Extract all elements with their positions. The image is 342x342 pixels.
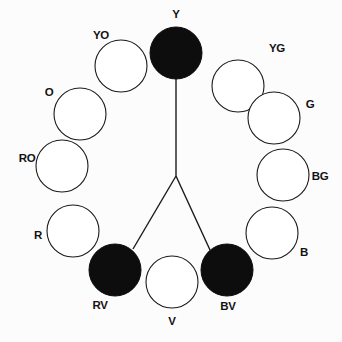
line-to-blue-violet [176,176,210,250]
hue-label-blue-violet: BV [220,301,235,313]
hue-swatch-violet[interactable] [146,256,198,308]
hue-swatch-red-orange[interactable] [36,140,88,192]
hue-label-yellow: Y [172,9,179,21]
hue-swatch-blue-violet[interactable] [201,244,253,296]
hue-swatch-green[interactable] [248,92,300,144]
hue-label-green: G [306,99,315,111]
hue-label-violet: V [168,316,175,328]
hue-label-blue: B [300,247,308,259]
line-to-red-violet [133,176,176,249]
hue-label-blue-green: BG [312,171,329,183]
hue-swatch-orange[interactable] [54,88,106,140]
hue-label-yellow-green: YG [269,43,285,55]
hue-label-orange: O [45,87,54,99]
hue-swatches-group [36,27,309,308]
hue-swatch-red[interactable] [47,205,99,257]
hue-label-red-violet: RV [92,300,107,312]
color-wheel-canvas [0,0,342,342]
harmony-lines-group [133,78,210,250]
hue-swatch-red-violet[interactable] [89,244,141,296]
hue-swatch-yellow[interactable] [150,27,202,79]
color-wheel-diagram: YYGGBGBBVVRVRROOYO [0,0,342,342]
hue-swatch-blue-green[interactable] [257,149,309,201]
hue-label-yellow-orange: YO [93,30,109,42]
hue-label-red: R [34,230,42,242]
hue-label-red-orange: RO [19,153,36,165]
hue-swatch-blue[interactable] [246,207,298,259]
hue-swatch-yellow-orange[interactable] [95,40,147,92]
